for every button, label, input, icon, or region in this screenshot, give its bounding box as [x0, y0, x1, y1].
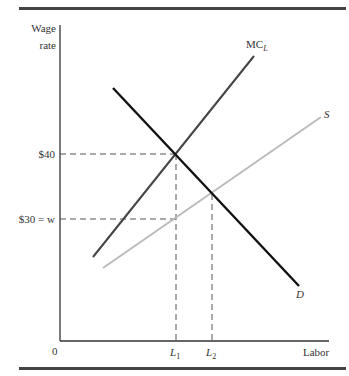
- bottom-rule: [19, 367, 346, 370]
- y-tick-30: $30 = w: [19, 213, 55, 225]
- y-axis-label-line1: Wage: [31, 22, 56, 34]
- dashed-guides: [60, 154, 212, 341]
- mc-labor-label: MCL: [246, 38, 268, 53]
- y-tick-40: $40: [39, 148, 56, 160]
- demand-curve: [113, 88, 299, 286]
- y-axis-label-line2: rate: [40, 39, 57, 51]
- x-tick-L2: L2: [205, 346, 216, 361]
- origin-label: 0: [52, 345, 58, 357]
- x-tick-L1: L1: [169, 346, 180, 361]
- demand-label: D: [295, 288, 304, 300]
- x-axis-label: Labor: [303, 346, 330, 358]
- monopsony-chart: Wage rate $40 $30 = w 0 L1 L2 Labor MCL …: [0, 0, 349, 376]
- mc-labor-curve: [93, 56, 254, 257]
- supply-label: S: [324, 108, 330, 120]
- top-rule: [19, 7, 346, 10]
